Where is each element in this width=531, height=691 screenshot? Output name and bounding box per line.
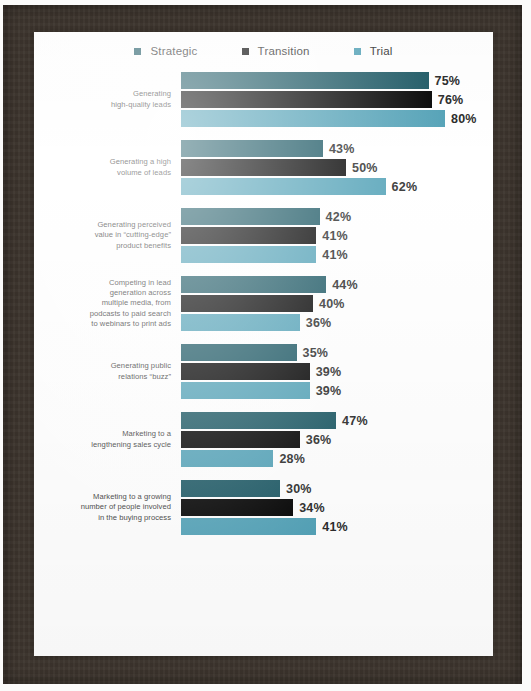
bar-group-bars: 47%36%28% (181, 412, 493, 467)
bar-group-bars: 44%40%36% (181, 276, 493, 331)
bar-trial[interactable] (181, 382, 310, 399)
bar-transition[interactable] (181, 227, 316, 244)
category-label: Generatinghigh-quality leads (34, 89, 181, 109)
bar-value-label: 30% (286, 482, 312, 496)
screenshot-stage: StrategicTransitionTrial Generatinghigh-… (0, 0, 531, 691)
legend-item-trial[interactable]: Trial (354, 45, 393, 57)
bar-row: 30% (181, 480, 493, 497)
category-label: Marketing to alengthening sales cycle (34, 429, 181, 449)
bar-value-label: 36% (306, 433, 332, 447)
bar-strategic[interactable] (181, 208, 320, 225)
bar-value-label: 39% (316, 365, 342, 379)
bar-value-label: 41% (322, 229, 348, 243)
bar-row: 42% (181, 208, 493, 225)
bar-value-label: 34% (299, 501, 325, 515)
bar-transition[interactable] (181, 499, 293, 516)
category-label: Generating a highvolume of leads (34, 157, 181, 177)
bar-group: Marketing to alengthening sales cycle47%… (34, 412, 493, 467)
bar-value-label: 44% (332, 278, 358, 292)
category-label: Marketing to a growingnumber of people i… (34, 492, 181, 523)
bar-transition[interactable] (181, 91, 432, 108)
bar-group: Generatinghigh-quality leads75%76%80% (34, 72, 493, 127)
bar-value-label: 41% (322, 248, 348, 262)
bar-value-label: 50% (352, 161, 378, 175)
bar-trial[interactable] (181, 110, 445, 127)
bar-group: Generating publicrelations “buzz”35%39%3… (34, 344, 493, 399)
category-label: Generating perceivedvalue in “cutting-ed… (34, 220, 181, 251)
bar-row: 41% (181, 227, 493, 244)
legend-swatch-icon (242, 48, 249, 55)
legend-item-label: Transition (258, 45, 310, 57)
bar-value-label: 47% (342, 414, 368, 428)
bar-row: 43% (181, 140, 493, 157)
bar-row: 80% (181, 110, 493, 127)
bar-value-label: 39% (316, 384, 342, 398)
bar-row: 40% (181, 295, 493, 312)
bar-value-label: 75% (435, 74, 461, 88)
bar-row: 34% (181, 499, 493, 516)
bar-row: 39% (181, 363, 493, 380)
photo-frame: StrategicTransitionTrial Generatinghigh-… (3, 5, 522, 684)
bar-value-label: 42% (326, 210, 352, 224)
bar-strategic[interactable] (181, 72, 429, 89)
bar-row: 28% (181, 450, 493, 467)
bar-strategic[interactable] (181, 276, 326, 293)
bar-group-bars: 43%50%62% (181, 140, 493, 195)
legend-swatch-icon (134, 48, 141, 55)
bar-value-label: 28% (279, 452, 305, 466)
bar-transition[interactable] (181, 295, 313, 312)
bar-transition[interactable] (181, 363, 310, 380)
bar-row: 41% (181, 518, 493, 535)
bar-trial[interactable] (181, 178, 386, 195)
bar-row: 41% (181, 246, 493, 263)
bar-value-label: 35% (303, 346, 329, 360)
legend-item-label: Trial (370, 45, 393, 57)
bar-group: Generating perceivedvalue in “cutting-ed… (34, 208, 493, 263)
bar-group-bars: 35%39%39% (181, 344, 493, 399)
legend-item-transition[interactable]: Transition (242, 45, 310, 57)
bar-value-label: 76% (438, 93, 464, 107)
bar-trial[interactable] (181, 518, 316, 535)
legend-item-label: Strategic (150, 45, 197, 57)
bar-row: 36% (181, 314, 493, 331)
bar-strategic[interactable] (181, 344, 297, 361)
bar-row: 44% (181, 276, 493, 293)
bar-trial[interactable] (181, 246, 316, 263)
category-label: Competing in leadgeneration acrossmultip… (34, 278, 181, 329)
bar-row: 39% (181, 382, 493, 399)
bar-row: 50% (181, 159, 493, 176)
bar-group: Marketing to a growingnumber of people i… (34, 480, 493, 535)
bar-value-label: 43% (329, 142, 355, 156)
bar-chart-plot: Generatinghigh-quality leads75%76%80%Gen… (34, 72, 493, 548)
category-label: Generating publicrelations “buzz” (34, 361, 181, 381)
bar-row: 36% (181, 431, 493, 448)
legend-item-strategic[interactable]: Strategic (134, 45, 197, 57)
chart-legend: StrategicTransitionTrial (34, 45, 493, 57)
legend-swatch-icon (354, 48, 361, 55)
bar-row: 76% (181, 91, 493, 108)
bar-row: 35% (181, 344, 493, 361)
bar-value-label: 40% (319, 297, 345, 311)
bar-trial[interactable] (181, 450, 273, 467)
bar-group: Generating a highvolume of leads43%50%62… (34, 140, 493, 195)
bar-row: 75% (181, 72, 493, 89)
bar-strategic[interactable] (181, 140, 323, 157)
bar-strategic[interactable] (181, 480, 280, 497)
bar-row: 62% (181, 178, 493, 195)
bar-value-label: 41% (322, 520, 348, 534)
chart-page: StrategicTransitionTrial Generatinghigh-… (34, 32, 493, 656)
bar-value-label: 80% (451, 112, 477, 126)
bar-trial[interactable] (181, 314, 300, 331)
bar-row: 47% (181, 412, 493, 429)
bar-group-bars: 30%34%41% (181, 480, 493, 535)
bar-group-bars: 75%76%80% (181, 72, 493, 127)
bar-group: Competing in leadgeneration acrossmultip… (34, 276, 493, 331)
bar-transition[interactable] (181, 159, 346, 176)
bar-value-label: 36% (306, 316, 332, 330)
bar-strategic[interactable] (181, 412, 336, 429)
bar-value-label: 62% (392, 180, 418, 194)
bar-transition[interactable] (181, 431, 300, 448)
bar-group-bars: 42%41%41% (181, 208, 493, 263)
